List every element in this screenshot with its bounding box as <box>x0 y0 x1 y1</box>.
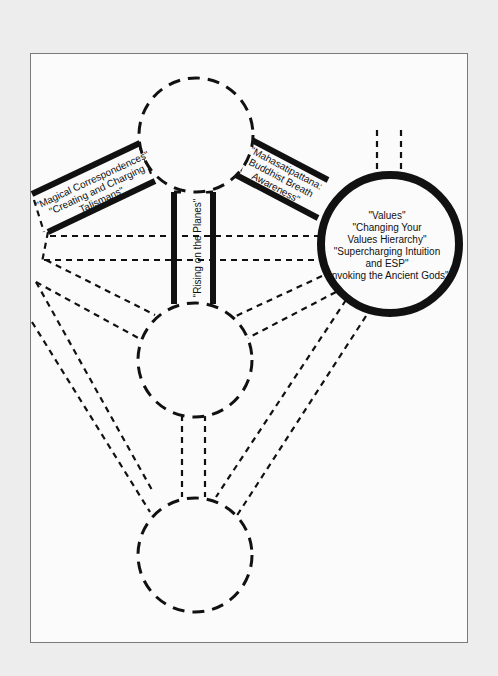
bottom-node <box>138 498 252 612</box>
svg-text:"Rising on the Planes": "Rising on the Planes" <box>192 198 203 297</box>
svg-text:"Invoking the Ancient Gods": "Invoking the Ancient Gods" <box>325 270 449 281</box>
svg-text:and ESP": and ESP" <box>365 258 408 269</box>
label-rising: "Rising on the Planes" <box>192 198 203 297</box>
svg-text:"Supercharging Intuition: "Supercharging Intuition <box>334 246 440 257</box>
svg-text:"Changing Your: "Changing Your <box>352 222 422 233</box>
svg-text:"Values": "Values" <box>369 210 406 221</box>
middle-node <box>138 303 252 417</box>
svg-text:Values Hierarchy": Values Hierarchy" <box>348 234 427 245</box>
top-node <box>139 78 253 192</box>
tree-diagram: "Magical Correspondences" "Creating and … <box>0 0 498 676</box>
